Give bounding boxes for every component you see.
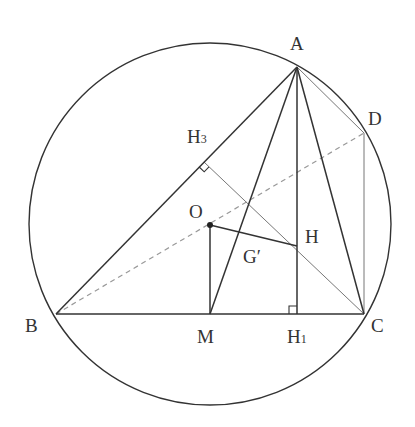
right-angle-mark-H3 bbox=[199, 167, 209, 172]
diagram-svg: A B C D O H G′ M H1 H3 bbox=[0, 0, 415, 427]
label-C: C bbox=[371, 315, 384, 336]
segment-OH bbox=[210, 225, 297, 246]
label-O: O bbox=[189, 201, 203, 222]
label-H1: H1 bbox=[287, 326, 307, 347]
segment-AD bbox=[297, 67, 364, 133]
segment-AC bbox=[297, 67, 364, 314]
geometry-diagram: A B C D O H G′ M H1 H3 bbox=[0, 0, 415, 427]
segment-AM bbox=[210, 67, 297, 314]
label-D: D bbox=[368, 108, 382, 129]
label-G-prime: G′ bbox=[243, 246, 261, 267]
label-A: A bbox=[290, 33, 304, 54]
center-point-O bbox=[207, 222, 213, 228]
segment-AB bbox=[56, 67, 297, 314]
label-H: H bbox=[305, 226, 319, 247]
segment-H3C bbox=[204, 162, 364, 314]
label-M: M bbox=[197, 326, 214, 347]
label-H3: H3 bbox=[187, 126, 207, 147]
label-B: B bbox=[25, 315, 38, 336]
right-angle-mark-H1 bbox=[289, 306, 297, 314]
